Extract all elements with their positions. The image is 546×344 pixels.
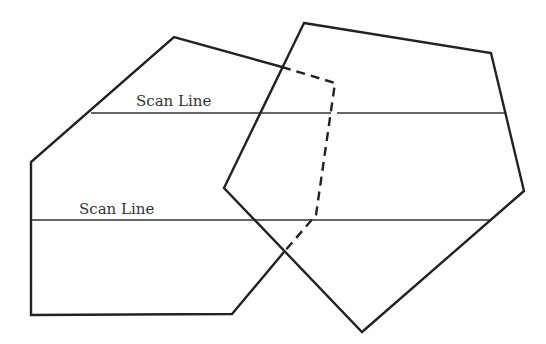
lower-scan-line-label: Scan Line — [79, 200, 154, 218]
right-polygon — [224, 23, 524, 332]
diagram-canvas: Scan Line Scan Line — [0, 0, 546, 344]
left-polygon-visible-edges — [31, 37, 284, 315]
upper-scan-line-label: Scan Line — [136, 92, 211, 110]
left-polygon-hidden-edges — [282, 67, 335, 252]
